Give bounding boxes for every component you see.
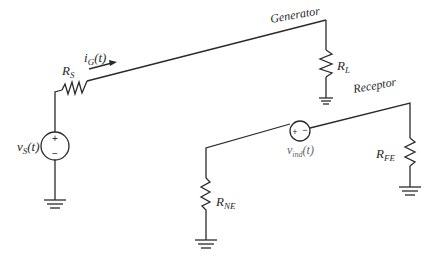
induced-voltage-source-icon: + −	[290, 121, 310, 141]
far-end-resistor-label: RFE	[375, 146, 395, 163]
svg-text:+: +	[52, 133, 58, 144]
induced-voltage-label: vind(t)	[287, 143, 314, 159]
load-resistor-label: RL	[336, 58, 350, 75]
load-resistor-icon	[320, 50, 332, 77]
source-resistor-label: RS	[61, 63, 75, 80]
svg-text:−: −	[52, 148, 58, 159]
ground-icon	[399, 187, 421, 195]
ground-icon	[319, 98, 333, 104]
near-end-resistor-icon	[201, 178, 210, 215]
receptor-circuit: Receptor RNE + − vind(t) RFE	[195, 75, 421, 248]
ground-icon	[44, 200, 66, 208]
ground-icon	[195, 240, 217, 248]
generator-circuit: + − vS(t) RS iG(t) Generator RL	[17, 3, 350, 208]
near-end-resistor-label: RNE	[215, 194, 236, 211]
source-voltage-label: vS(t)	[17, 139, 40, 156]
source-top-wire	[55, 90, 62, 132]
current-label: iG(t)	[84, 50, 106, 67]
circuit-diagram: + − vS(t) RS iG(t) Generator RL Receptor	[0, 0, 436, 263]
source-resistor-icon	[62, 81, 87, 94]
receptor-label: Receptor	[351, 75, 397, 97]
receptor-line	[310, 103, 410, 138]
generator-label: Generator	[269, 3, 321, 26]
svg-text:−: −	[302, 125, 307, 135]
voltage-source-icon: + −	[41, 132, 69, 160]
far-end-resistor-icon	[405, 138, 415, 166]
ne-top-wire	[206, 124, 290, 178]
generator-line	[87, 20, 326, 81]
svg-text:+: +	[292, 127, 297, 137]
